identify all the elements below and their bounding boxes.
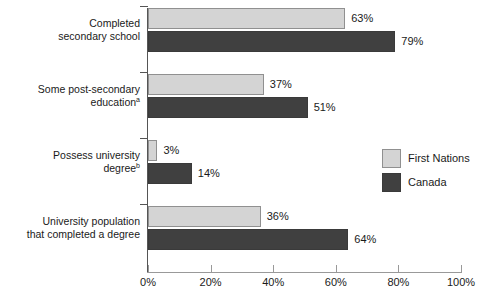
bar-value-label-1-0: 79% [401,31,423,52]
x-axis-tick-label-4: 80% [368,276,428,288]
category-label-1: Some post-secondaryeducationa [0,83,140,109]
bar-1-2 [148,163,192,184]
category-label-line: Completed [0,17,140,30]
bar-1-1 [148,97,308,118]
y-axis-tick [140,72,148,73]
footnote-marker: a [136,96,140,103]
category-label-line: Possess university [0,149,140,162]
legend-swatch-1 [382,173,401,192]
bar-0-3 [148,206,261,227]
category-label-line: secondary school [0,30,140,43]
category-label-3: University populationthat completed a de… [0,215,140,241]
x-axis-tick-label-2: 40% [243,276,303,288]
bar-1-0 [148,31,395,52]
y-axis-tick [140,138,148,139]
bar-value-label-1-3: 64% [354,229,376,250]
x-axis-tick-label-1: 20% [181,276,241,288]
bar-value-label-1-1: 51% [314,97,336,118]
x-axis-tick-label-0: 0% [118,276,178,288]
chart-legend: First NationsCanada [382,146,470,194]
bar-0-2 [148,140,157,161]
legend-item-0[interactable]: First Nations [382,146,470,170]
x-axis-tick [336,265,337,272]
category-label-2: Possess universitydegreeb [0,149,140,175]
footnote-marker: b [136,162,140,169]
bar-1-3 [148,229,348,250]
x-axis-line [147,272,462,273]
x-axis-tick [461,265,462,272]
category-label-line: degreeb [0,162,140,175]
x-axis-tick-label-5: 100% [431,276,481,288]
bar-value-label-0-2: 3% [163,140,179,161]
category-label-0: Completedsecondary school [0,17,140,43]
category-label-line: that completed a degree [0,228,140,241]
x-axis-tick [211,265,212,272]
bar-0-1 [148,74,264,95]
x-axis-tick-label-3: 60% [306,276,366,288]
y-axis-tick [140,204,148,205]
legend-label-1: Canada [408,176,447,188]
x-axis-tick [398,265,399,272]
bar-value-label-1-2: 14% [198,163,220,184]
legend-item-1[interactable]: Canada [382,170,470,194]
category-label-line: educationa [0,96,140,109]
bar-chart: Completedsecondary schoolSome post-secon… [0,0,481,305]
bar-0-0 [148,8,345,29]
category-label-line: University population [0,215,140,228]
plot-area: 63%37%3%36%79%51%14%64% [148,8,461,271]
bar-value-label-0-1: 37% [270,74,292,95]
category-label-line: Some post-secondary [0,83,140,96]
bar-value-label-0-3: 36% [267,206,289,227]
x-axis-tick [148,265,149,272]
bar-value-label-0-0: 63% [351,8,373,29]
x-axis-tick [273,265,274,272]
legend-label-0: First Nations [408,152,470,164]
legend-swatch-0 [382,149,401,168]
y-axis-tick [140,6,148,7]
